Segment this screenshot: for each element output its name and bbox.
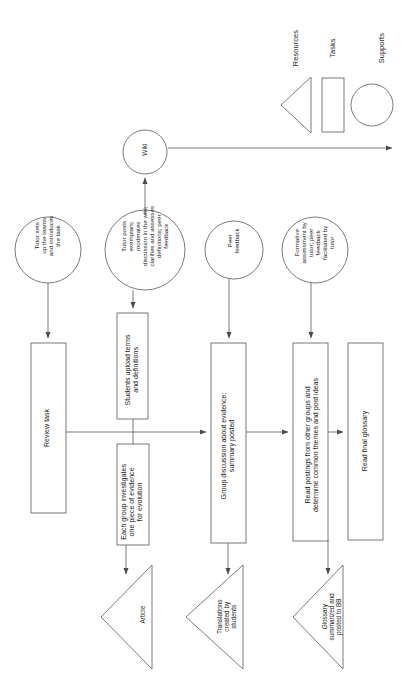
support-circle-3 (205, 221, 263, 279)
task-rect-3 (117, 444, 149, 545)
support-circle-2 (105, 210, 185, 290)
task-rect-1 (31, 343, 66, 513)
task-rect-5 (293, 343, 328, 541)
resource-triangle-2 (186, 565, 243, 669)
legend-circle-shape (351, 84, 393, 126)
resource-triangle-3 (293, 565, 343, 669)
task-rect-2 (117, 313, 148, 419)
support-circle-1 (15, 217, 81, 283)
task-rect-4 (211, 343, 246, 543)
support-circle-4 (282, 217, 348, 283)
legend-rectangle-shape (322, 78, 344, 132)
wiki-circle (123, 130, 167, 174)
diagram-canvas: Resources Tasks Supports Wiki Tutor sets… (0, 0, 404, 675)
task-rect-6 (348, 343, 383, 540)
diagram-shapes (0, 0, 404, 675)
resource-triangle-1 (101, 565, 152, 669)
legend-triangle-shape (281, 77, 311, 133)
